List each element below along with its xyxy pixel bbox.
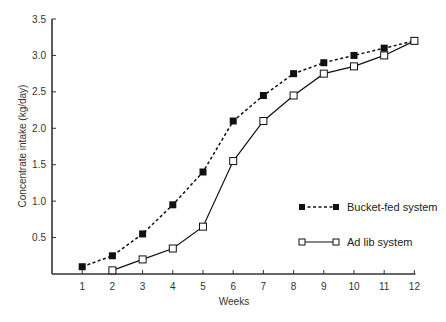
filled-square-marker-icon [139,230,146,237]
filled-square-marker-icon [230,118,237,125]
x-tick-label: 8 [291,281,297,292]
filled-square-marker-icon [320,59,327,66]
x-axis-label: Weeks [219,296,249,307]
y-axis-label: Concentrate intake (kg/day) [17,85,28,208]
bucket-fed-line [82,41,414,267]
x-tick-label: 10 [348,281,360,292]
open-square-marker-icon [169,245,176,252]
y-tick-label: 1.5 [32,159,46,170]
filled-square-marker-icon [299,204,305,210]
filled-square-marker-icon [169,201,176,208]
legend-item-bucket-fed: Bucket-fed system [299,201,437,213]
x-tick-label: 11 [379,281,390,292]
filled-square-marker-icon [79,263,86,270]
y-tick-label: 2.5 [32,86,46,97]
open-square-marker-icon [299,239,305,245]
open-square-marker-icon [333,239,339,245]
legend: Bucket-fed system Ad lib system [299,201,437,248]
filled-square-marker-icon [351,52,358,59]
open-square-marker-icon [200,223,207,230]
filled-square-marker-icon [260,92,267,99]
filled-square-marker-icon [333,204,339,210]
filled-square-marker-icon [109,252,116,259]
open-square-marker-icon [381,52,388,59]
open-square-marker-icon [230,158,237,165]
filled-square-marker-icon [290,70,297,77]
y-tick-label: 3.0 [32,50,46,61]
open-square-marker-icon [411,37,418,44]
open-square-marker-icon [351,63,358,70]
chart: 0.51.01.52.02.53.03.5123456789101112 Con… [0,0,446,322]
y-tick-label: 0.5 [32,232,46,243]
filled-square-marker-icon [381,45,388,52]
legend-item-ad-lib: Ad lib system [299,236,412,248]
open-square-marker-icon [320,70,327,77]
x-tick-label: 12 [409,281,421,292]
x-tick-label: 9 [321,281,327,292]
x-tick-label: 3 [140,281,146,292]
x-tick-label: 2 [110,281,116,292]
legend-label: Ad lib system [347,236,412,248]
y-tick-label: 3.5 [32,14,46,25]
x-tick-label: 5 [200,281,206,292]
x-tick-label: 7 [261,281,267,292]
open-square-marker-icon [290,92,297,99]
y-tick-label: 2.0 [32,123,46,134]
open-square-marker-icon [139,256,146,263]
legend-label: Bucket-fed system [347,201,437,213]
x-tick-label: 4 [170,281,176,292]
axes: 0.51.01.52.02.53.03.5123456789101112 [32,14,420,293]
open-square-marker-icon [260,118,267,125]
x-tick-label: 1 [79,281,85,292]
filled-square-marker-icon [200,169,207,176]
x-tick-label: 6 [230,281,236,292]
open-square-marker-icon [109,267,116,274]
y-tick-label: 1.0 [32,196,46,207]
